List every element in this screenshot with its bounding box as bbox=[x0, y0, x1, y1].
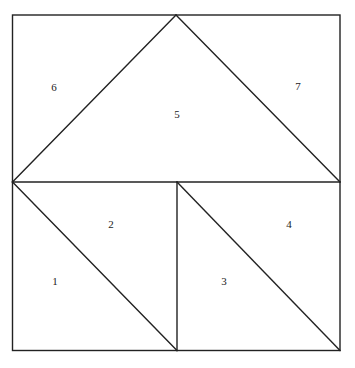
piece-label-2: 2 bbox=[108, 218, 114, 230]
piece-label-6: 6 bbox=[51, 81, 57, 93]
dissection-diagram: 6 5 7 2 1 4 3 bbox=[0, 0, 355, 368]
piece-label-7: 7 bbox=[295, 80, 301, 92]
left-diagonal bbox=[13, 182, 178, 351]
left-roof-line bbox=[13, 15, 177, 182]
piece-label-5: 5 bbox=[174, 108, 180, 120]
piece-label-3: 3 bbox=[221, 275, 227, 287]
piece-label-4: 4 bbox=[286, 218, 292, 230]
right-diagonal bbox=[177, 182, 340, 351]
right-roof-line bbox=[176, 15, 340, 182]
piece-label-1: 1 bbox=[52, 275, 58, 287]
